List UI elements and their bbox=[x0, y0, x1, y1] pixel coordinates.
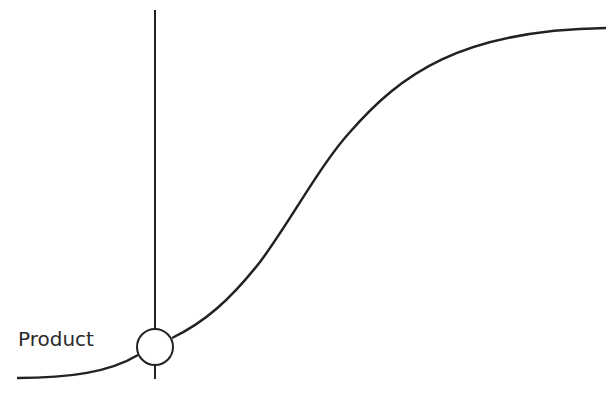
product-marker bbox=[137, 329, 173, 365]
adoption-curve bbox=[17, 28, 606, 378]
product-label: Product bbox=[18, 327, 94, 351]
